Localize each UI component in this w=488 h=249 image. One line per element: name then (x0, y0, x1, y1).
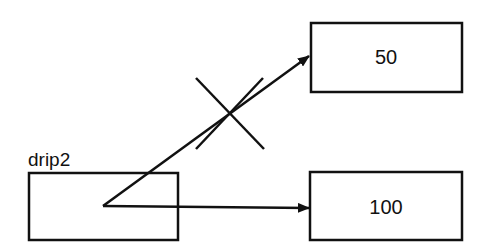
value-box-50: 50 (311, 23, 462, 92)
value-label-100: 100 (369, 196, 402, 218)
old-reference-arrow (103, 56, 309, 206)
reference-diagram: drip2 50 100 (0, 0, 488, 249)
value-box-100: 100 (310, 172, 462, 240)
variable-name-label: drip2 (28, 149, 70, 170)
cross-out-icon (196, 78, 264, 149)
value-label-50: 50 (375, 46, 397, 68)
new-reference-arrow (103, 206, 309, 208)
